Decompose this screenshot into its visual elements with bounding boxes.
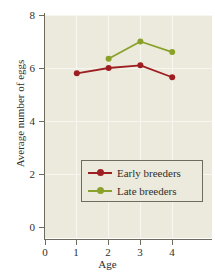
data-point [169, 74, 175, 80]
legend-label-early-breeders: Early breeders [112, 167, 181, 179]
series-layer [0, 0, 215, 273]
chart-legend: Early breeders Late breeders [81, 160, 203, 202]
legend-label-late-breeders: Late breeders [112, 185, 177, 197]
legend-item-early-breeders: Early breeders [82, 164, 202, 182]
legend-item-late-breeders: Late breeders [82, 182, 202, 200]
legend-dot-late [97, 187, 104, 194]
data-point [106, 65, 112, 71]
data-point [137, 39, 143, 45]
legend-marker-icon [88, 167, 112, 179]
data-point [169, 49, 175, 55]
data-point [74, 70, 80, 76]
legend-dot-early [97, 169, 104, 176]
series-line [77, 65, 172, 77]
data-point [137, 62, 143, 68]
legend-marker-icon [88, 185, 112, 197]
data-point [106, 56, 112, 62]
chart-figure: 8 6 4 2 0 0 1 2 3 4 Age Average number o… [0, 0, 215, 273]
